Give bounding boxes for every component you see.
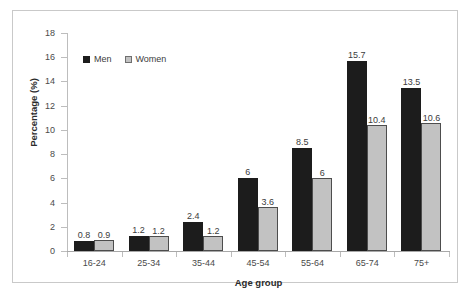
y-axis-tick-label: 0	[15, 246, 55, 256]
bar-women: 6	[312, 178, 332, 251]
x-axis-line	[67, 251, 450, 252]
bar-women: 0.9	[94, 240, 114, 251]
bar-value-label: 1.2	[152, 226, 165, 236]
bar-value-label: 6	[245, 167, 250, 177]
bar-men: 13.5	[401, 88, 421, 252]
bar-value-label: 2.4	[187, 211, 200, 221]
x-axis-tick	[285, 252, 286, 257]
x-axis-tick	[122, 252, 123, 257]
bar-women: 1.2	[149, 236, 169, 251]
x-axis-tick	[67, 252, 68, 257]
bar-women: 1.2	[203, 236, 223, 251]
bar-value-label: 15.7	[348, 50, 366, 60]
bar-chart-figure: Percentage (%) Age group 024681012141618…	[0, 0, 471, 296]
y-axis-tick-label: 6	[15, 173, 55, 183]
bar-group: 2.41.2	[176, 33, 231, 251]
x-axis-category-label: 75+	[392, 258, 452, 269]
bar-women: 10.4	[367, 125, 387, 251]
x-axis-tick	[340, 252, 341, 257]
chart-frame: Percentage (%) Age group 024681012141618…	[12, 10, 458, 283]
bar-men: 1.2	[129, 236, 149, 251]
bar-men: 8.5	[292, 148, 312, 251]
bar-value-label: 3.6	[261, 197, 274, 207]
y-axis-tick-label: 4	[15, 198, 55, 208]
bar-value-label: 1.2	[207, 226, 220, 236]
x-axis-tick	[394, 252, 395, 257]
x-axis-category-label: 45-54	[228, 258, 288, 269]
y-axis-tick-label: 14	[15, 76, 55, 86]
bar-value-label: 1.2	[132, 225, 145, 235]
bar-group: 15.710.4	[340, 33, 395, 251]
bar-group: 63.6	[231, 33, 286, 251]
y-axis-tick-label: 18	[15, 28, 55, 38]
y-axis-tick-label: 2	[15, 222, 55, 232]
bar-group: 13.510.6	[394, 33, 449, 251]
x-axis-category-label: 16-24	[64, 258, 124, 269]
x-axis-category-label: 65-74	[337, 258, 397, 269]
y-axis-tick-label: 12	[15, 101, 55, 111]
bar-men: 0.8	[74, 241, 94, 251]
x-axis-category-label: 25-34	[119, 258, 179, 269]
bar-value-label: 8.5	[296, 137, 309, 147]
bar-group: 0.80.9	[67, 33, 122, 251]
bar-value-label: 0.9	[98, 230, 111, 240]
bar-group: 1.21.2	[122, 33, 177, 251]
x-axis-tick	[449, 252, 450, 257]
y-axis-tick-label: 8	[15, 149, 55, 159]
bar-group: 8.56	[285, 33, 340, 251]
bar-women: 10.6	[421, 123, 441, 251]
x-axis-tick	[231, 252, 232, 257]
bar-men: 15.7	[347, 61, 367, 251]
plot-area: 0.80.91.21.22.41.263.68.5615.710.413.510…	[67, 33, 449, 251]
bar-men: 2.4	[183, 222, 203, 251]
x-axis-category-label: 55-64	[283, 258, 343, 269]
bar-value-label: 13.5	[403, 77, 421, 87]
y-axis-tick-label: 16	[15, 52, 55, 62]
bar-women: 3.6	[258, 207, 278, 251]
bar-value-label: 10.4	[368, 115, 386, 125]
bar-value-label: 6	[320, 168, 325, 178]
bar-men: 6	[238, 178, 258, 251]
bar-value-label: 0.8	[78, 230, 91, 240]
y-axis-tick-label: 10	[15, 125, 55, 135]
x-axis-title: Age group	[67, 277, 450, 288]
bar-value-label: 10.6	[423, 113, 441, 123]
x-axis-category-label: 35-44	[173, 258, 233, 269]
x-axis-tick	[176, 252, 177, 257]
